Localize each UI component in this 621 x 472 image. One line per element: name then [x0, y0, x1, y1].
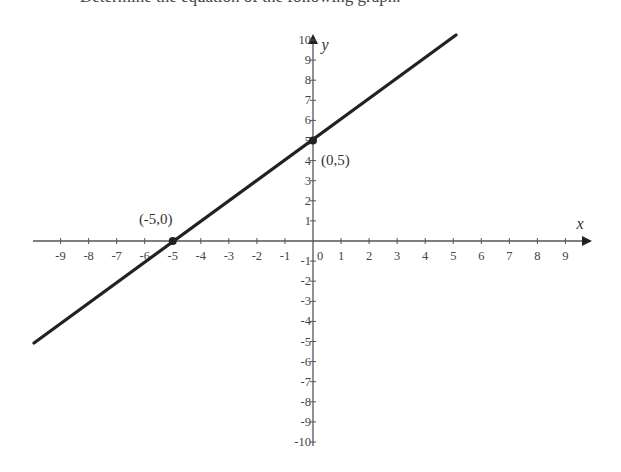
y-tick-label: -6: [301, 355, 311, 369]
x-tick-label: 9: [562, 249, 568, 263]
y-tick-label: -9: [301, 415, 311, 429]
x-axis-arrow-icon: [582, 236, 592, 246]
y-tick-label: -8: [301, 395, 311, 409]
x-tick-label: -8: [83, 249, 93, 263]
x-tick-label: 5: [450, 249, 456, 263]
y-tick-label: -7: [301, 375, 311, 389]
x-tick-label: -9: [55, 249, 65, 263]
point-label: (0,5): [321, 152, 350, 169]
x-tick-label: 3: [394, 249, 400, 263]
x-tick-label: -5: [168, 249, 178, 263]
x-tick-label: -4: [196, 249, 207, 263]
y-tick-label: 6: [305, 113, 311, 127]
y-tick-label: -4: [301, 314, 312, 328]
y-axis-label: y: [319, 36, 329, 54]
point-marker: [309, 137, 317, 145]
point-marker: [169, 237, 177, 245]
y-tick-label: -3: [301, 294, 311, 308]
y-tick-label: 9: [305, 53, 311, 67]
y-tick-label: 7: [305, 93, 311, 107]
x-tick-label: 2: [366, 249, 372, 263]
point-label: (-5,0): [139, 211, 173, 228]
x-tick-label: 4: [422, 249, 429, 263]
y-tick-label: 8: [305, 73, 311, 87]
y-tick-label: -1: [301, 254, 311, 268]
x-tick-label: 8: [534, 249, 540, 263]
x-tick-label: -2: [252, 249, 262, 263]
x-axis-label: x: [575, 215, 583, 232]
y-tick-label: -10: [294, 435, 311, 449]
x-tick-label: 0: [317, 249, 323, 263]
x-tick-label: 1: [338, 249, 344, 263]
x-tick-label: -1: [280, 249, 290, 263]
y-tick-label: 1: [305, 214, 311, 228]
y-tick-label: 2: [305, 194, 311, 208]
y-tick-label: -5: [301, 335, 311, 349]
x-tick-label: 6: [478, 249, 484, 263]
y-tick-label: -2: [301, 274, 311, 288]
coordinate-plane: -9-8-7-6-5-4-3-2-10123456789-10-9-8-7-6-…: [0, 0, 621, 472]
y-tick-label: 3: [305, 174, 311, 188]
y-tick-label: 10: [299, 33, 312, 47]
line-series: [34, 35, 456, 343]
x-tick-label: -3: [224, 249, 234, 263]
x-tick-label: 7: [506, 249, 512, 263]
y-tick-label: 4: [305, 154, 312, 168]
x-tick-label: -7: [111, 249, 121, 263]
